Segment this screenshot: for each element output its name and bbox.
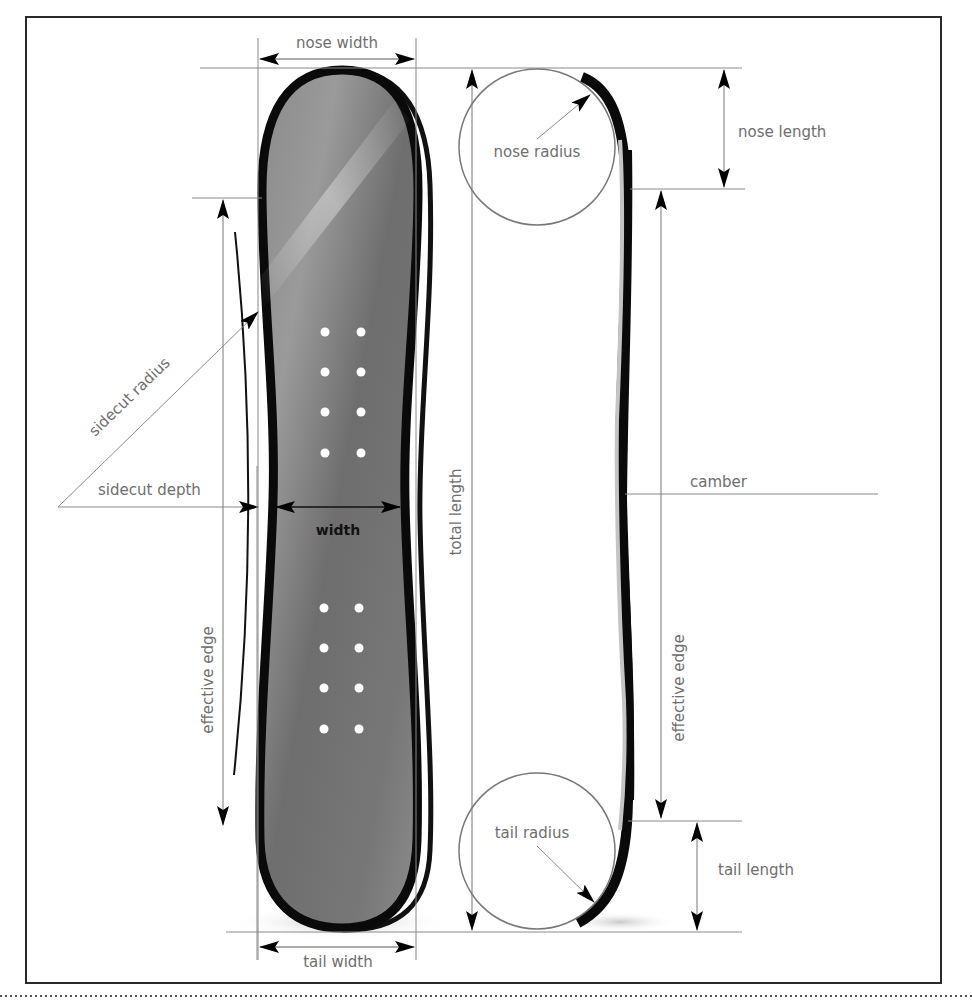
- snowboard-diagram: nose width tail width width sidecut radi…: [0, 0, 972, 1001]
- effective-edge-left-dimension: effective edge: [192, 198, 262, 825]
- tail-length-dimension: tail length: [628, 821, 794, 930]
- tail-width-dimension: tail width: [260, 947, 414, 971]
- width-label: width: [316, 522, 360, 538]
- effective-edge-right-label: effective edge: [670, 634, 688, 741]
- sidecut-radius-label: sidecut radius: [85, 354, 174, 440]
- nose-radius-label: nose radius: [494, 143, 581, 161]
- sidecut-depth-label: sidecut depth: [98, 481, 201, 499]
- sidecut-arc: [234, 232, 248, 775]
- sidecut-dimension: sidecut radius sidecut depth: [58, 232, 258, 960]
- nose-width-label: nose width: [296, 34, 378, 52]
- nose-length-label: nose length: [738, 123, 826, 141]
- total-length-label: total length: [447, 469, 465, 556]
- frame-border: [26, 17, 941, 983]
- tail-radius-dimension: tail radius: [459, 773, 615, 929]
- board-top-view: [230, 70, 450, 940]
- effective-edge-left-label: effective edge: [199, 626, 217, 733]
- nose-length-dimension: nose length: [630, 70, 826, 189]
- effective-edge-right-dimension: effective edge: [661, 191, 688, 818]
- camber-label: camber: [690, 473, 748, 491]
- tail-length-label: tail length: [718, 861, 794, 879]
- camber-dimension: camber: [625, 473, 878, 494]
- nose-radius-dimension: nose radius: [459, 69, 615, 225]
- total-length-dimension: total length: [447, 70, 472, 930]
- board-profile-view: [565, 77, 675, 932]
- tail-width-label: tail width: [303, 953, 373, 971]
- tail-radius-label: tail radius: [495, 824, 570, 842]
